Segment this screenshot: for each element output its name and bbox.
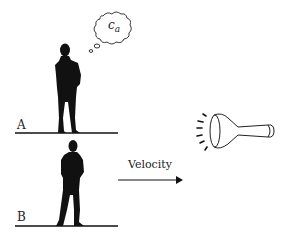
- velocity-label: Velocity: [128, 158, 172, 171]
- diagram-canvas: [0, 0, 288, 240]
- flashlight-icon: [210, 114, 274, 148]
- observer-a-label: A: [17, 118, 26, 132]
- thought-subscript: a: [115, 24, 120, 34]
- person-a-silhouette: [55, 44, 81, 134]
- thought-symbol: c: [108, 18, 115, 32]
- observer-b-label: B: [17, 210, 26, 224]
- thought-text: ca: [108, 18, 120, 34]
- velocity-arrow-icon: [118, 176, 183, 184]
- person-b-silhouette: [56, 140, 84, 226]
- light-rays-icon: [197, 114, 207, 150]
